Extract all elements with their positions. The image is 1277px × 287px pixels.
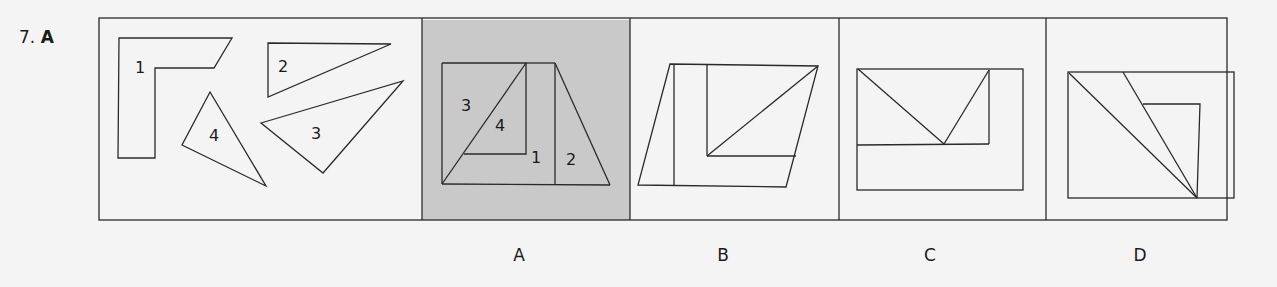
option-a-piece-4: 4 (495, 116, 505, 135)
option-d-figure (1068, 72, 1234, 198)
piece-1-label: 1 (135, 58, 145, 77)
piece-3-triangle (261, 81, 403, 173)
option-d-label[interactable]: D (1120, 245, 1160, 265)
option-b-label[interactable]: B (703, 245, 743, 265)
piece-4-label: 4 (209, 126, 219, 145)
option-c-label[interactable]: C (910, 245, 950, 265)
piece-3-label: 3 (311, 124, 321, 143)
option-a-piece-3: 3 (461, 96, 471, 115)
option-a-piece-2: 2 (566, 150, 576, 169)
pieces-panel (118, 38, 403, 186)
option-a-label[interactable]: A (499, 245, 539, 265)
option-c-figure (857, 69, 1023, 190)
option-a-piece-1: 1 (531, 148, 541, 167)
option-b-figure (638, 64, 818, 187)
piece-2-label: 2 (278, 57, 288, 76)
piece-4-triangle (182, 92, 266, 186)
puzzle-strip: 1 2 3 4 3 4 1 2 (0, 0, 1277, 287)
